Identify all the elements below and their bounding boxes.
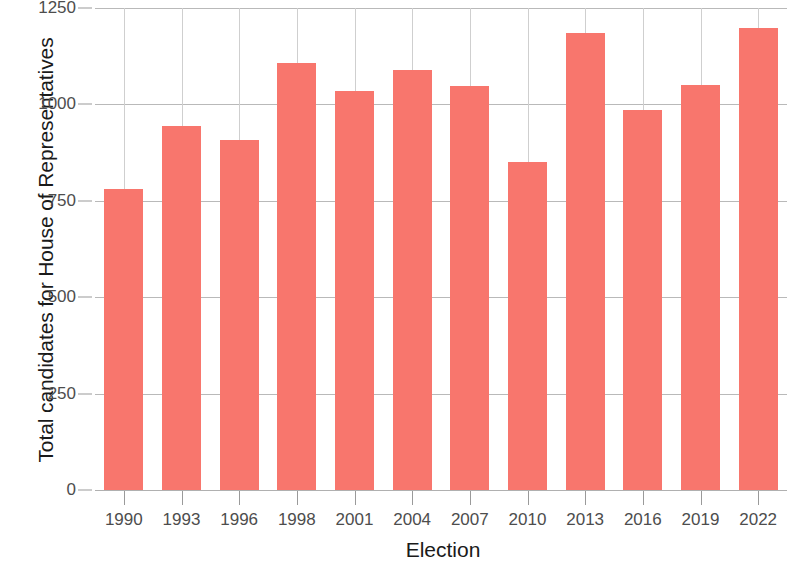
- x-tick-mark: [239, 491, 240, 505]
- bar-1996: [220, 140, 259, 490]
- y-tick-label: 1000: [12, 94, 76, 114]
- x-axis-title: Election: [95, 538, 791, 562]
- bar-2007: [450, 86, 489, 490]
- x-tick-mark: [182, 491, 183, 505]
- x-tick-mark: [297, 491, 298, 505]
- x-tick-label: 2013: [566, 510, 604, 530]
- y-tick-mark: [78, 393, 92, 394]
- x-tick-label: 1996: [220, 510, 258, 530]
- y-tick-label: 250: [12, 384, 76, 404]
- bar-1998: [277, 63, 316, 490]
- y-tick-mark: [78, 104, 92, 105]
- y-tick-mark: [78, 490, 92, 491]
- x-tick-mark: [124, 491, 125, 505]
- bar-2022: [739, 28, 778, 490]
- bar-2019: [681, 85, 720, 490]
- y-tick-label: 1250: [12, 0, 76, 18]
- y-axis-ticks: 025050075010001250: [0, 0, 76, 566]
- bar-2016: [623, 110, 662, 490]
- bar-chart: Total candidates for House of Representa…: [0, 0, 791, 566]
- x-tick-mark: [585, 491, 586, 505]
- y-tick-mark: [78, 8, 92, 9]
- y-tick-mark: [78, 297, 92, 298]
- x-tick-mark: [412, 491, 413, 505]
- x-tick-mark: [758, 491, 759, 505]
- x-tick-label: 2010: [509, 510, 547, 530]
- x-tick-label: 2004: [393, 510, 431, 530]
- bar-2013: [566, 33, 605, 490]
- x-tick-mark: [643, 491, 644, 505]
- x-tick-label: 1998: [278, 510, 316, 530]
- y-tick-label: 750: [12, 191, 76, 211]
- x-tick-label: 2019: [682, 510, 720, 530]
- bar-1993: [162, 126, 201, 490]
- x-tick-mark: [470, 491, 471, 505]
- plot-area: [95, 8, 787, 490]
- x-tick-mark: [355, 491, 356, 505]
- x-tick-label: 2016: [624, 510, 662, 530]
- x-axis-line: [95, 490, 787, 491]
- x-tick-mark: [528, 491, 529, 505]
- bar-1990: [104, 189, 143, 490]
- y-tick-mark: [78, 200, 92, 201]
- gridline-horizontal: [95, 8, 787, 9]
- y-tick-label: 0: [12, 480, 76, 500]
- bar-2010: [508, 162, 547, 490]
- x-tick-label: 2007: [451, 510, 489, 530]
- bar-2004: [393, 70, 432, 490]
- x-tick-mark: [701, 491, 702, 505]
- x-tick-label: 1990: [105, 510, 143, 530]
- x-tick-label: 2001: [336, 510, 374, 530]
- x-tick-label: 1993: [163, 510, 201, 530]
- x-tick-label: 2022: [739, 510, 777, 530]
- bar-2001: [335, 91, 374, 490]
- y-tick-label: 500: [12, 287, 76, 307]
